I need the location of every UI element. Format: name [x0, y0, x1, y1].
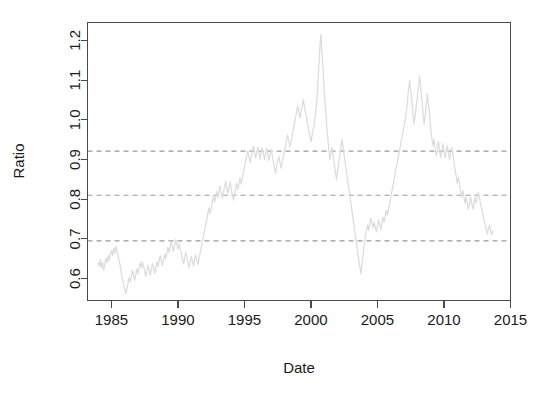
x-tick-label-2005: 2005	[361, 311, 394, 328]
y-tick-label-1.1: 1.1	[66, 70, 83, 91]
y-tick-label-1.2: 1.2	[66, 30, 83, 51]
x-axis-title: Date	[283, 359, 315, 376]
chart-figure: 0.60.70.80.91.01.11.2 198519901995200020…	[0, 0, 543, 393]
y-tick-label-0.8: 0.8	[66, 189, 83, 210]
y-tick-label-1.0: 1.0	[66, 109, 83, 130]
ratio-vs-date-line-chart: 0.60.70.80.91.01.11.2 198519901995200020…	[0, 0, 543, 393]
y-tick-label-0.9: 0.9	[66, 149, 83, 170]
x-tick-label-2010: 2010	[427, 311, 460, 328]
x-tick-label-2000: 2000	[294, 311, 327, 328]
x-tick-label-1995: 1995	[228, 311, 261, 328]
y-tick-label-0.7: 0.7	[66, 229, 83, 250]
y-tick-label-0.6: 0.6	[66, 268, 83, 289]
x-tick-label-1985: 1985	[95, 311, 128, 328]
x-tick-label-2015: 2015	[494, 311, 527, 328]
y-axis-title: Ratio	[10, 143, 27, 178]
x-tick-label-1990: 1990	[161, 311, 194, 328]
